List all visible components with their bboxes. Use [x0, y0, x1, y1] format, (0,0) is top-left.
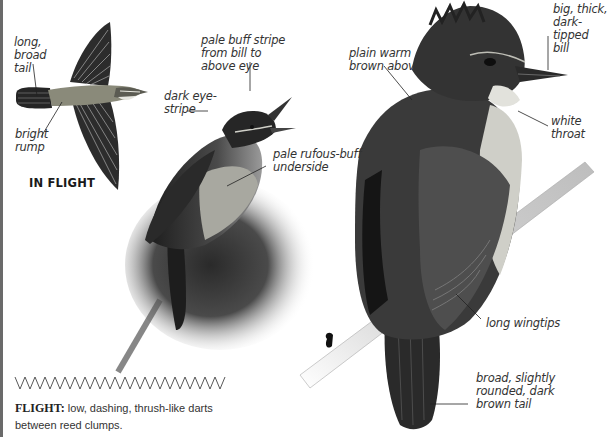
- label-broad-tail: broad, slightly rounded, dark brown tail: [476, 372, 555, 411]
- in-flight-caption: IN FLIGHT: [29, 176, 95, 190]
- label-pale-buff-stripe: pale buff stripe from bill to above eye: [201, 34, 285, 73]
- label-plain-warm-brown: plain warm brown above: [349, 47, 421, 73]
- field-guide-page: long, broad tail bright rump IN FLIGHT p…: [0, 0, 610, 437]
- flight-pattern-zigzag: [15, 377, 225, 389]
- label-white-throat: white throat: [551, 115, 585, 141]
- flight-description: FLIGHT: low, dashing, thrush-like darts …: [15, 400, 245, 434]
- label-bright-rump: bright rump: [15, 128, 48, 154]
- label-long-wingtips: long wingtips: [486, 317, 560, 330]
- perched-bird-illustration: [300, 4, 594, 429]
- singing-bird-illustration: [118, 97, 315, 372]
- label-pale-rufous-underside: pale rufous-buff underside: [273, 148, 361, 174]
- flight-heading: FLIGHT:: [15, 401, 65, 415]
- label-dark-eye-stripe: dark eye- stripe: [164, 90, 217, 116]
- label-long-broad-tail: long, broad tail: [14, 36, 46, 75]
- label-big-thick-bill: big, thick, dark-tipped bill: [553, 3, 610, 55]
